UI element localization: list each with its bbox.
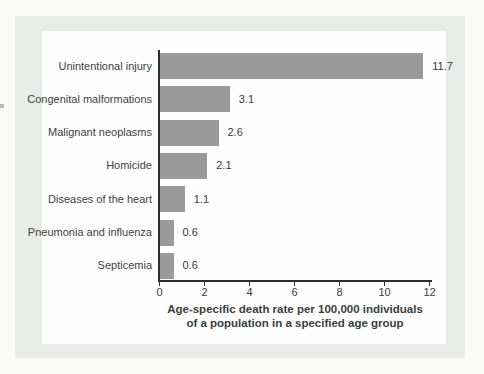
x-tick-label: 10 [372,286,398,299]
x-tick-label: 4 [237,286,263,299]
bar [160,153,207,179]
bar-category-label: Pneumonia and influenza [6,226,152,239]
bar [160,120,219,146]
bar-category-label: Unintentional injury [6,60,152,73]
bar-value-label: 3.1 [239,93,254,106]
bar-category-label: Homicide [6,159,152,172]
bar-value-label: 0.6 [183,259,198,272]
bar [160,53,423,79]
bar-chart: Unintentional injury11.7Congenital malfo… [0,0,484,374]
bar-value-label: 11.7 [432,60,453,73]
bar-value-label: 0.6 [183,226,198,239]
bar [160,253,174,279]
bar [160,220,174,246]
x-axis-line [158,280,432,282]
x-tick-label: 6 [282,286,308,299]
x-axis-title: Age-specific death rate per 100,000 indi… [158,302,432,330]
bar-category-label: Septicemia [6,259,152,272]
x-tick-label: 0 [147,286,173,299]
bar-category-label: Diseases of the heart [6,193,152,206]
x-axis-title-line2: of a population in a specified age group [158,316,432,330]
bar-value-label: 2.1 [216,159,231,172]
x-tick-label: 8 [327,286,353,299]
bar-value-label: 2.6 [228,126,243,139]
bar-category-label: Malignant neoplasms [6,126,152,139]
x-axis-title-line1: Age-specific death rate per 100,000 indi… [158,302,432,316]
bar [160,86,230,112]
bar-value-label: 1.1 [194,193,209,206]
x-tick-label: 12 [417,286,443,299]
bar [160,186,185,212]
x-tick-label: 2 [192,286,218,299]
bar-category-label: Congenital malformations [6,93,152,106]
